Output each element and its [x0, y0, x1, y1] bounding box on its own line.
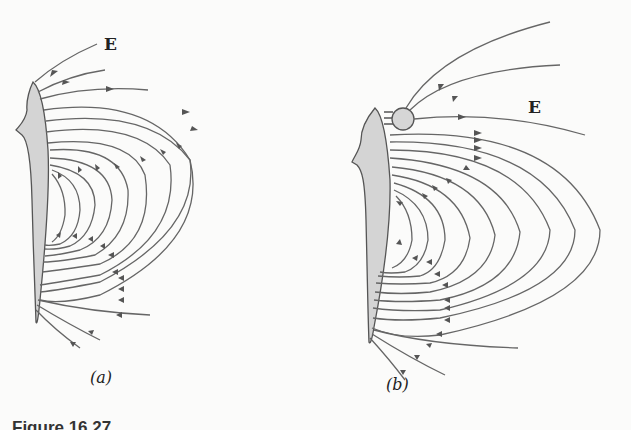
field-label-a: E	[104, 34, 117, 54]
panel-label-a: (a)	[90, 368, 112, 387]
conducting-sphere	[392, 108, 414, 130]
panel-label-b: (b)	[386, 375, 409, 394]
panel-a	[16, 44, 198, 348]
field-label-b: E	[528, 97, 541, 117]
field-diagram	[0, 0, 631, 430]
fish-body-a	[16, 82, 48, 323]
figure-caption: Figure 16.27	[12, 414, 111, 430]
panel-b	[352, 22, 600, 380]
fish-body-b	[352, 108, 390, 343]
